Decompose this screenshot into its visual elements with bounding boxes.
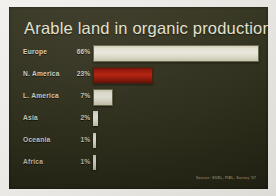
bar-track xyxy=(93,65,264,87)
table-row: Europe 66% xyxy=(9,43,268,65)
table-row: Oceania 1% xyxy=(9,131,268,153)
table-row: Africa 1% xyxy=(9,153,268,175)
bar-track xyxy=(93,87,264,109)
table-row: L. America 7% xyxy=(9,87,268,109)
bar-oceania xyxy=(93,133,96,148)
presentation-slide: Arable land in organic production Europe… xyxy=(9,7,268,189)
page-title: Arable land in organic production xyxy=(24,19,268,38)
source-note: Source: SOEL, FIBL, Survey '07 xyxy=(196,176,256,180)
bar-europe xyxy=(93,45,259,62)
bar-track xyxy=(93,43,264,65)
bar-value-label: 2% xyxy=(66,114,90,121)
bar-value-label: 7% xyxy=(66,92,90,99)
table-row: N. America 23% xyxy=(9,65,268,87)
bar-track xyxy=(93,109,264,131)
bar-africa xyxy=(93,155,96,170)
bar-l-america xyxy=(93,89,113,106)
bar-value-label: 1% xyxy=(66,158,90,165)
bar-asia xyxy=(93,111,98,126)
table-row: Asia 2% xyxy=(9,109,268,131)
photo-frame: Arable land in organic production Europe… xyxy=(0,0,276,196)
bar-value-label: 66% xyxy=(66,48,90,55)
bar-track xyxy=(93,153,264,175)
bar-chart: Europe 66% N. America 23% L. America 7% xyxy=(9,43,268,175)
bar-value-label: 23% xyxy=(66,70,90,77)
bar-n-america xyxy=(93,67,153,84)
bar-track xyxy=(93,131,264,153)
bar-value-label: 1% xyxy=(66,136,90,143)
